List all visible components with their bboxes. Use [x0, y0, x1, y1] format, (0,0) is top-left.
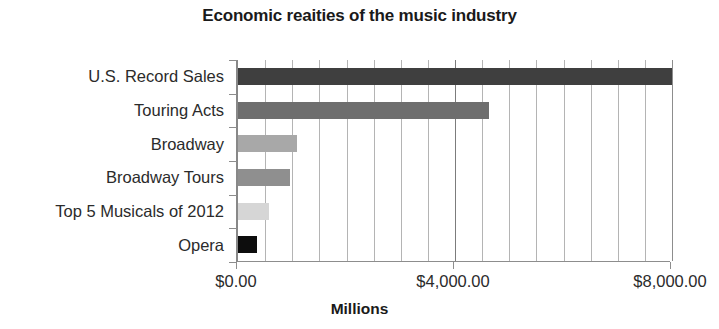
- bar-row: [238, 195, 670, 229]
- y-axis-tick: [229, 161, 237, 162]
- y-axis-label: Top 5 Musicals of 2012: [55, 195, 224, 229]
- x-axis-tick: [670, 262, 671, 269]
- y-axis-label: Broadway Tours: [106, 161, 224, 195]
- x-axis-tick: [453, 262, 454, 269]
- x-axis-title: Millions: [0, 300, 719, 318]
- y-axis-label: Touring Acts: [134, 94, 224, 128]
- bar: [238, 68, 672, 85]
- bar-row: [238, 228, 670, 262]
- y-axis-label: Opera: [178, 228, 224, 262]
- bar-row: [238, 161, 670, 195]
- bar: [238, 135, 297, 152]
- y-axis-tick: [229, 60, 237, 61]
- y-axis-tick: [229, 127, 237, 128]
- bars-layer: [238, 60, 670, 261]
- bar: [238, 236, 257, 253]
- y-axis-category-labels: U.S. Record SalesTouring ActsBroadwayBro…: [0, 60, 232, 262]
- bar-chart: Economic reaities of the music industry …: [0, 0, 719, 329]
- bar-row: [238, 94, 670, 128]
- x-axis-tick-label: $0.00: [215, 272, 256, 291]
- y-axis-tick: [229, 228, 237, 229]
- x-axis-tick-label: $8,000.00: [633, 272, 706, 291]
- chart-title: Economic reaities of the music industry: [0, 6, 719, 26]
- bar: [238, 102, 489, 119]
- y-axis-tick: [229, 195, 237, 196]
- y-axis-label: Broadway: [151, 127, 224, 161]
- bar-row: [238, 60, 670, 94]
- bar-row: [238, 127, 670, 161]
- bar: [238, 203, 269, 220]
- bar: [238, 169, 290, 186]
- plot-area: [236, 60, 670, 262]
- x-axis-tick: [236, 262, 237, 269]
- y-axis-tick: [229, 94, 237, 95]
- gridline: [672, 60, 673, 261]
- x-axis-tick-label: $4,000.00: [416, 272, 489, 291]
- y-axis-label: U.S. Record Sales: [88, 60, 224, 94]
